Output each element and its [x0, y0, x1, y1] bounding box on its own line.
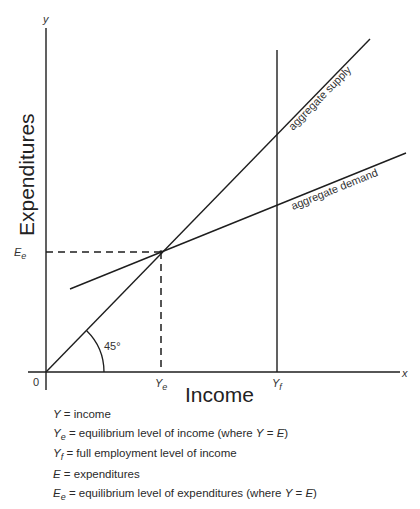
y-axis-title: Expenditures: [15, 113, 38, 236]
legend-text: =: [264, 427, 277, 439]
y-axis-letter: y: [42, 13, 50, 25]
ye-label: Ye: [155, 377, 167, 392]
legend-text: ): [284, 427, 288, 439]
legend-row-ye: Ye = equilibrium level of income (where …: [53, 424, 317, 444]
legend-symbol: Y: [53, 427, 61, 439]
legend-symbol: E: [53, 487, 61, 499]
legend-row-yf: Yf = full employment level of income: [53, 444, 317, 464]
yf-label: Yf: [272, 377, 283, 392]
legend-subscript: e: [61, 492, 66, 502]
legend-text: = equilibrium level of income (where: [66, 427, 256, 439]
aggregate-supply-label: aggregate supply: [286, 63, 354, 132]
x-axis-letter: x: [401, 367, 408, 379]
legend-text: =: [292, 487, 305, 499]
legend: Y = income Ye = equilibrium level of inc…: [53, 405, 317, 504]
legend-symbol: Y: [256, 427, 264, 439]
ee-label: Ee: [14, 246, 26, 261]
x-axis-title: Income: [185, 383, 254, 406]
legend-symbol: Y: [53, 447, 61, 459]
legend-subscript: f: [61, 452, 64, 462]
legend-text: ): [313, 487, 317, 499]
legend-subscript: e: [61, 432, 66, 442]
angle-label: 45°: [104, 340, 121, 352]
legend-row-ee: Ee = equilibrium level of expenditures (…: [53, 484, 317, 504]
legend-text: = full employment level of income: [63, 447, 237, 459]
legend-symbol: E: [53, 468, 61, 480]
legend-text: = expenditures: [61, 468, 140, 480]
legend-row-e: E = expenditures: [53, 465, 317, 484]
angle-arc: [87, 331, 104, 372]
legend-symbol: Y: [53, 408, 61, 420]
legend-symbol: E: [305, 487, 313, 499]
equilibrium-point: [159, 250, 163, 254]
legend-text: = income: [61, 408, 111, 420]
legend-row-y: Y = income: [53, 405, 317, 424]
origin-label: 0: [33, 376, 39, 388]
legend-text: = equilibrium level of expenditures (whe…: [66, 487, 285, 499]
aggregate-demand-label: aggregate demand: [289, 166, 379, 212]
